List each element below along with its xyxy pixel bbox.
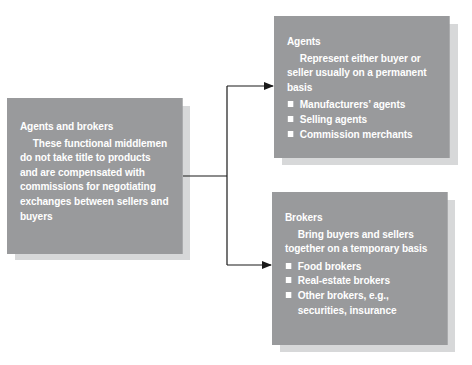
connector-lines — [0, 0, 472, 365]
